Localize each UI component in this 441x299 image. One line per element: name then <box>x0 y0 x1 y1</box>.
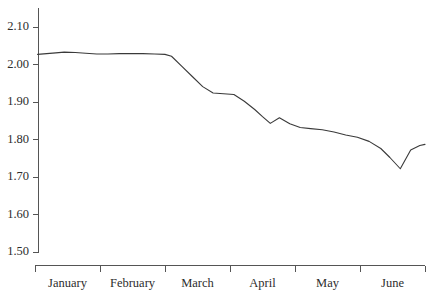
x-axis-group: JanuaryFebruaryMarchAprilMayJune <box>35 266 425 290</box>
y-tick-label-group: 2.102.001.901.801.701.601.50 <box>7 19 29 258</box>
y-tick-label: 1.60 <box>7 207 29 221</box>
y-tick-label: 2.00 <box>7 57 29 71</box>
x-tick-label: June <box>381 276 404 290</box>
x-tick-label: January <box>48 276 88 290</box>
x-tick-label: May <box>316 276 340 290</box>
x-tick-label: March <box>181 276 214 290</box>
y-tick-label: 1.70 <box>7 169 29 183</box>
chart-canvas: 2.102.001.901.801.701.601.50 JanuaryFebr… <box>0 0 441 299</box>
y-tick-label: 2.10 <box>7 19 29 33</box>
x-tick-label-group: JanuaryFebruaryMarchAprilMayJune <box>48 276 404 290</box>
y-tick-label: 1.50 <box>7 244 29 258</box>
x-tick-label: April <box>249 276 276 290</box>
x-tick-group <box>35 266 425 272</box>
y-tick-label: 1.90 <box>7 94 29 108</box>
x-tick-label: February <box>110 276 156 290</box>
data-series-line <box>38 52 425 169</box>
line-chart: 2.102.001.901.801.701.601.50 JanuaryFebr… <box>0 0 441 299</box>
y-tick-label: 1.80 <box>7 132 29 146</box>
y-axis-group: 2.102.001.901.801.701.601.50 <box>7 8 38 258</box>
y-tick-group <box>33 27 39 252</box>
